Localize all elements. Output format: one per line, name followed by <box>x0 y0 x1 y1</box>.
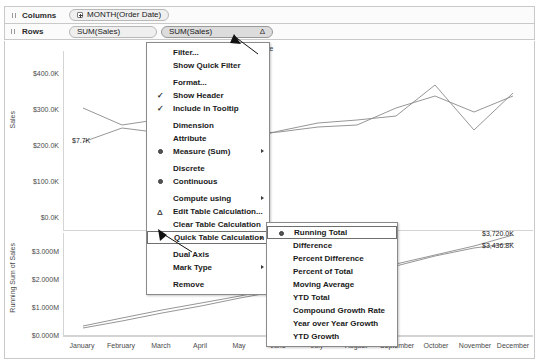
chevron-right-icon <box>261 196 264 200</box>
submenu-item-label: Running Total <box>294 228 347 237</box>
menu-item-edit-table-calculation[interactable]: Δ Edit Table Calculation... <box>147 205 269 218</box>
menu-item-include-in-tooltip[interactable]: ✓ Include in Tooltip <box>147 102 269 115</box>
check-icon: ✓ <box>157 89 164 102</box>
columns-shelf-label: Columns <box>5 11 69 20</box>
check-icon: ✓ <box>157 102 164 115</box>
data-label: $3,436.8K <box>482 242 514 249</box>
menu-item-format[interactable]: Format... <box>147 76 269 89</box>
submenu-item-ytd-growth[interactable]: YTD Growth <box>267 330 397 343</box>
tableau-worksheet: Columns MONTH(Order Date) Rows SUM(Sales… <box>0 0 539 362</box>
menu-item-filter[interactable]: Filter... <box>147 46 269 59</box>
menu-item-dual-axis[interactable]: Dual Axis <box>147 248 269 261</box>
submenu-item-year-over-year-growth[interactable]: Year over Year Growth <box>267 317 397 330</box>
axis-tick: $400.0K <box>33 70 59 77</box>
top-chart-lines <box>64 51 536 231</box>
menu-item-label: Attribute <box>173 134 206 143</box>
axis-tick: $200.0K <box>33 142 59 149</box>
submenu-item-label: Year over Year Growth <box>293 319 378 328</box>
menu-item-discrete[interactable]: Discrete <box>147 162 269 175</box>
x-tick: April <box>193 342 207 349</box>
menu-item-compute-using[interactable]: Compute using <box>147 192 269 205</box>
chevron-right-icon <box>261 149 264 153</box>
submenu-item-label: YTD Growth <box>293 332 339 341</box>
menu-item-label: Remove <box>173 280 204 289</box>
pill-label: MONTH(Order Date) <box>87 9 161 21</box>
submenu-item-compound-growth-rate[interactable]: Compound Growth Rate <box>267 304 397 317</box>
axis-tick: $0.000M <box>32 332 59 339</box>
axis-tick: $300.0K <box>33 106 59 113</box>
top-pane[interactable]: $7.7K <box>63 51 533 231</box>
shelf-area: Columns MONTH(Order Date) Rows SUM(Sales… <box>4 6 535 40</box>
menu-item-attribute[interactable]: Attribute <box>147 132 269 145</box>
menu-item-label: Format... <box>173 78 207 87</box>
top-axis[interactable]: Sales $400.0K $300.0K $200.0K $100.0K $0… <box>5 51 63 231</box>
menu-item-label: Mark Type <box>173 263 212 272</box>
menu-item-measure-sum[interactable]: Measure (Sum) <box>147 145 269 158</box>
columns-shelf[interactable]: Columns MONTH(Order Date) <box>4 6 535 23</box>
rows-label-text: Rows <box>22 27 43 36</box>
menu-item-show-header[interactable]: ✓ Show Header <box>147 89 269 102</box>
submenu-item-label: Percent Difference <box>293 254 364 263</box>
submenu-item-ytd-total[interactable]: YTD Total <box>267 291 397 304</box>
submenu-item-label: Percent of Total <box>293 267 353 276</box>
bottom-axis-title: Running Sum of Sales <box>9 243 16 313</box>
x-tick: March <box>151 342 170 349</box>
submenu-item-moving-average[interactable]: Moving Average <box>267 278 397 291</box>
submenu-item-label: Moving Average <box>293 280 354 289</box>
pill-sum-sales-1[interactable]: SUM(Sales) <box>69 26 157 38</box>
grip-icon <box>11 12 18 19</box>
axis-tick: $0.0K <box>41 214 59 221</box>
menu-item-quick-table-calculation[interactable]: Quick Table Calculation <box>147 231 269 244</box>
columns-label-text: Columns <box>22 11 56 20</box>
submenu-item-label: Difference <box>293 241 332 250</box>
radio-selected-icon <box>279 231 284 236</box>
x-tick: February <box>107 342 135 349</box>
plus-box-icon[interactable] <box>77 12 83 18</box>
quick-table-calculation-submenu[interactable]: Running Total Difference Percent Differe… <box>266 222 398 347</box>
submenu-item-percent-of-total[interactable]: Percent of Total <box>267 265 397 278</box>
menu-item-label: Show Quick Filter <box>173 61 241 70</box>
menu-item-label: Dimension <box>173 121 214 130</box>
menu-item-label: Quick Table Calculation <box>174 233 264 242</box>
menu-item-label: Discrete <box>173 164 205 173</box>
menu-item-clear-table-calculation[interactable]: Clear Table Calculation <box>147 218 269 231</box>
x-tick: November <box>459 342 491 349</box>
radio-selected-icon <box>158 149 163 154</box>
top-axis-title: Sales <box>9 111 16 129</box>
rows-shelf[interactable]: Rows SUM(Sales) SUM(Sales) Δ <box>4 23 535 40</box>
menu-item-label: Compute using <box>173 194 231 203</box>
menu-item-label: Filter... <box>173 48 199 57</box>
submenu-item-running-total[interactable]: Running Total <box>267 226 397 239</box>
menu-item-label: Include in Tooltip <box>173 104 239 113</box>
submenu-item-label: YTD Total <box>293 293 330 302</box>
menu-item-label: Measure (Sum) <box>173 147 230 156</box>
pill-sum-sales-2[interactable]: SUM(Sales) Δ <box>161 26 273 38</box>
data-label: $3,720.0K <box>482 230 514 237</box>
axis-tick: $2.000M <box>32 276 59 283</box>
menu-item-label: Clear Table Calculation <box>173 220 261 229</box>
pill-context-menu[interactable]: Filter... Show Quick Filter Format... ✓ … <box>146 42 270 295</box>
axis-tick: $1.000M <box>32 304 59 311</box>
chevron-right-icon <box>260 236 263 240</box>
x-tick: December <box>497 342 529 349</box>
pill-month-order-date[interactable]: MONTH(Order Date) <box>69 9 169 21</box>
chevron-right-icon <box>261 265 264 269</box>
menu-item-continuous[interactable]: Continuous <box>147 175 269 188</box>
menu-item-label: Continuous <box>173 177 217 186</box>
data-label: $7.7K <box>72 137 90 144</box>
pill-label: SUM(Sales) <box>169 26 212 38</box>
submenu-item-difference[interactable]: Difference <box>267 239 397 252</box>
menu-item-show-quick-filter[interactable]: Show Quick Filter <box>147 59 269 72</box>
menu-item-remove[interactable]: Remove <box>147 278 269 291</box>
submenu-item-percent-difference[interactable]: Percent Difference <box>267 252 397 265</box>
rows-shelf-label: Rows <box>5 27 69 36</box>
menu-item-mark-type[interactable]: Mark Type <box>147 261 269 274</box>
grip-icon <box>11 28 18 35</box>
menu-item-dimension[interactable]: Dimension <box>147 119 269 132</box>
menu-item-label: Dual Axis <box>173 250 209 259</box>
pill-label: SUM(Sales) <box>77 26 120 38</box>
x-tick: January <box>70 342 95 349</box>
bottom-axis[interactable]: Running Sum of Sales $3.000M $2.000M $1.… <box>5 233 63 336</box>
delta-icon: Δ <box>246 26 265 38</box>
menu-item-label: Edit Table Calculation... <box>173 207 263 216</box>
